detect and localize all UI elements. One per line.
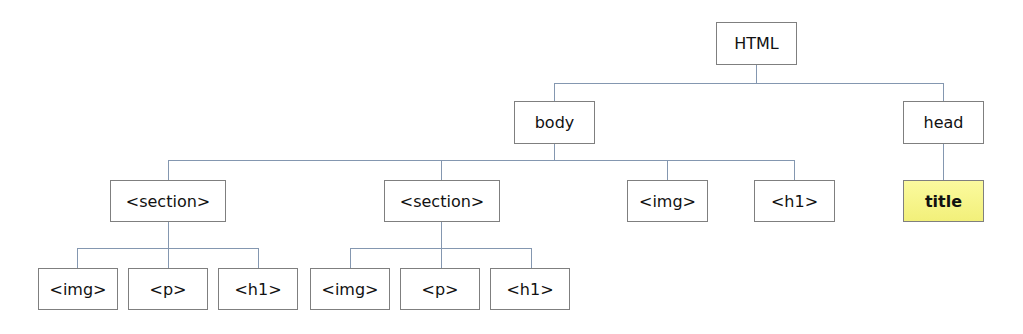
connector	[756, 65, 757, 83]
node-title: title	[903, 180, 984, 222]
connector	[667, 160, 668, 180]
node-body-section-1: <section>	[110, 180, 226, 222]
connector	[943, 143, 944, 180]
node-body-section-2: <section>	[384, 180, 500, 222]
node-html: HTML	[716, 22, 797, 65]
node-body-h1: <h1>	[754, 180, 835, 222]
connector	[531, 248, 532, 268]
connector	[554, 83, 555, 102]
node-s1-img: <img>	[38, 268, 118, 310]
node-s2-p: <p>	[400, 268, 480, 310]
connector	[554, 143, 555, 160]
node-body-img: <img>	[627, 180, 708, 222]
connector	[794, 160, 795, 180]
connector	[350, 248, 351, 268]
node-head: head	[903, 101, 984, 144]
connector	[168, 160, 795, 161]
connector	[441, 160, 442, 180]
node-s2-h1: <h1>	[490, 268, 570, 310]
node-s1-p: <p>	[128, 268, 208, 310]
connector	[168, 248, 169, 268]
connector	[258, 248, 259, 268]
connector	[168, 222, 169, 248]
node-s2-img: <img>	[310, 268, 390, 310]
node-body: body	[514, 101, 595, 144]
connector	[441, 222, 442, 248]
node-s1-h1: <h1>	[218, 268, 298, 310]
connector	[554, 83, 944, 84]
connector	[77, 248, 78, 268]
connector	[168, 160, 169, 180]
connector	[441, 248, 442, 268]
connector	[943, 83, 944, 102]
